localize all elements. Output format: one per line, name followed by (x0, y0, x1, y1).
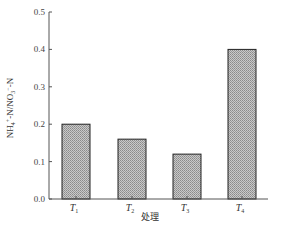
y-tick-label: 0.4 (34, 44, 46, 54)
svg-text:NH4+-N/NO3−-N: NH4+-N/NO3−-N (5, 77, 16, 138)
bar-chart: 0.00.10.20.30.40.5 T1T2T3T4 处理 NH4+-N/NO… (0, 0, 286, 231)
y-tick-label: 0.2 (34, 119, 45, 129)
x-tick-label: T1 (70, 202, 79, 214)
x-tick-label: T4 (236, 202, 245, 214)
x-axis-title: 处理 (141, 211, 159, 222)
x-tick-label: T3 (181, 202, 190, 214)
x-tick-label: T2 (126, 202, 135, 214)
bar-t4 (228, 49, 256, 199)
bars (62, 49, 256, 199)
y-tick-label: 0.5 (34, 7, 46, 17)
bar-t3 (173, 154, 201, 199)
bar-t1 (62, 124, 90, 199)
y-tick-label: 0.1 (34, 157, 45, 167)
y-tick-label: 0.0 (34, 194, 46, 204)
bar-t2 (118, 139, 146, 199)
y-axis-title: NH4+-N/NO3−-N (5, 77, 16, 138)
y-tick-label: 0.3 (34, 82, 46, 92)
